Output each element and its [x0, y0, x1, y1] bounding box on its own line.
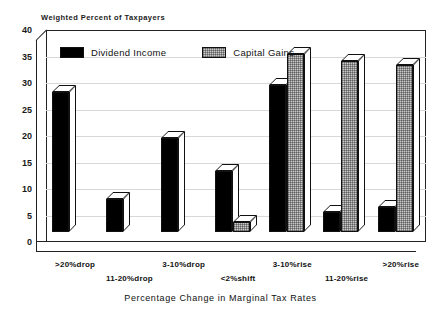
- bar-side: [413, 58, 420, 232]
- bar-face: [233, 222, 250, 232]
- bar-capital-gains: [341, 61, 358, 232]
- bar-face: [52, 92, 69, 232]
- bar-face: [215, 171, 232, 232]
- y-tick-15: 15: [10, 158, 32, 168]
- x-tick-label: 3-10%rise: [273, 260, 312, 269]
- bar-dividend-income: [323, 212, 340, 232]
- x-tick-label: >20%rise: [383, 260, 420, 269]
- bar-side: [358, 54, 365, 232]
- x-tick-label: >20%drop: [55, 260, 95, 269]
- x-tick-label: 3-10%drop: [162, 260, 205, 269]
- bar-face: [341, 61, 358, 232]
- x-axis-tick-labels: >20%drop11-20%drop3-10%drop<2%shift3-10%…: [36, 252, 426, 292]
- bar-capital-gains: [396, 65, 413, 232]
- legend-item-dividend-income: Dividend Income: [60, 47, 166, 58]
- y-tick-35: 35: [10, 52, 32, 62]
- bar-side: [69, 84, 76, 232]
- x-axis-title: Percentage Change in Marginal Tax Rates: [0, 293, 441, 303]
- y-tick-5: 5: [10, 211, 32, 221]
- bar-face: [161, 138, 178, 232]
- bar-group: [46, 30, 100, 242]
- bar-capital-gains: [287, 54, 304, 232]
- bar-face: [323, 212, 340, 232]
- bar-group: [155, 30, 209, 242]
- bar-capital-gains: [233, 222, 250, 232]
- bar-side: [178, 130, 185, 232]
- bar-dividend-income: [215, 171, 232, 232]
- x-tick-label: <2%shift: [221, 274, 256, 283]
- plot-area: [36, 30, 426, 252]
- bar-side: [304, 47, 311, 232]
- y-tick-25: 25: [10, 105, 32, 115]
- y-tick-40: 40: [10, 25, 32, 35]
- bar-face: [269, 85, 286, 232]
- chart-root: Weighted Percent of Taxpayers 0510152025…: [0, 0, 441, 315]
- legend-swatch-dividend-income: [60, 47, 84, 58]
- bars-container: [46, 30, 426, 242]
- bar-face: [378, 207, 395, 232]
- bar-face: [396, 65, 413, 232]
- legend-item-capital-gains: Capital Gains: [202, 47, 294, 58]
- y-tick-20: 20: [10, 131, 32, 141]
- legend-swatch-capital-gains: [202, 47, 226, 58]
- bar-dividend-income: [269, 85, 286, 232]
- bar-group: [372, 30, 426, 242]
- legend-label-dividend-income: Dividend Income: [91, 47, 166, 58]
- legend: Dividend Income Capital Gains: [60, 47, 294, 58]
- y-tick-10: 10: [10, 184, 32, 194]
- bar-dividend-income: [52, 92, 69, 232]
- x-tick-label: 11-20%rise: [325, 274, 368, 283]
- bar-group: [317, 30, 371, 242]
- y-tick-30: 30: [10, 78, 32, 88]
- bar-group: [263, 30, 317, 242]
- bar-group: [100, 30, 154, 242]
- y-axis-tick-labels: 0510152025303540: [0, 30, 32, 252]
- bar-dividend-income: [378, 207, 395, 232]
- plot-frame-left-wall: [36, 40, 46, 252]
- bar-face: [106, 199, 123, 232]
- bar-group: [209, 30, 263, 242]
- y-axis-title: Weighted Percent of Taxpayers: [41, 13, 165, 22]
- bar-dividend-income: [161, 138, 178, 232]
- x-tick-label: 11-20%drop: [106, 274, 153, 283]
- y-tick-0: 0: [10, 237, 32, 247]
- legend-label-capital-gains: Capital Gains: [233, 47, 294, 58]
- bar-dividend-income: [106, 199, 123, 232]
- bar-face: [287, 54, 304, 232]
